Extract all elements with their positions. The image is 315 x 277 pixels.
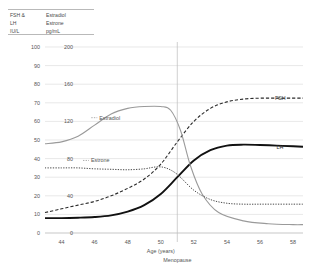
grid-lines (45, 47, 303, 233)
axis-labels: Age (years) (147, 248, 175, 254)
y-tick-left-80: 80 (34, 81, 40, 87)
curve-estrone (45, 167, 303, 204)
x-tick-48: 48 (125, 239, 131, 245)
y-tick-left-0: 0 (37, 230, 40, 236)
y-tick-left-90: 90 (34, 63, 40, 69)
y-tick-left-10: 10 (34, 211, 40, 217)
chart-svg: 0102030405060708090100 04080120160200 44… (0, 0, 315, 277)
y-tick-left-70: 70 (34, 100, 40, 106)
series-labels: FSHLHEstradiolEstrone (83, 95, 286, 163)
x-tick-50: 50 (158, 239, 164, 245)
x-tick-52: 52 (191, 239, 197, 245)
x-tick-54: 54 (224, 239, 230, 245)
series-label-estrone: Estrone (91, 157, 110, 163)
x-tick-44: 44 (59, 239, 65, 245)
series-curves (45, 98, 303, 225)
y-tick-left-40: 40 (34, 156, 40, 162)
y-tick-right-40: 40 (67, 193, 73, 199)
y-tick-right-120: 120 (64, 118, 73, 124)
series-label-estradiol: Estradiol (99, 115, 120, 121)
chart-page: FSH & LH IU/L Estradiol Estrone pg/mL 01… (0, 0, 315, 277)
y-tick-left-20: 20 (34, 193, 40, 199)
y-tick-right-160: 160 (64, 81, 73, 87)
y-tick-right-80: 80 (67, 156, 73, 162)
series-label-lh: LH (277, 144, 284, 150)
y-tick-left-100: 100 (31, 44, 40, 50)
curve-lh (45, 145, 303, 219)
series-label-fsh: FSH (275, 95, 286, 101)
x-axis-label: Age (years) (147, 248, 175, 254)
y-tick-right-0: 0 (70, 230, 73, 236)
y-tick-left-30: 30 (34, 174, 40, 180)
y-tick-left-50: 50 (34, 137, 40, 143)
y-tick-right-200: 200 (64, 44, 73, 50)
menopause-label: Menopause (163, 257, 191, 263)
y-tick-left-60: 60 (34, 118, 40, 124)
curve-estradiol (45, 106, 303, 225)
x-tick-46: 46 (92, 239, 98, 245)
y-axis-left-ticks: 0102030405060708090100 (31, 44, 40, 236)
x-tick-56: 56 (257, 239, 263, 245)
x-tick-58: 58 (290, 239, 296, 245)
hormone-line-chart: 0102030405060708090100 04080120160200 44… (0, 0, 315, 277)
